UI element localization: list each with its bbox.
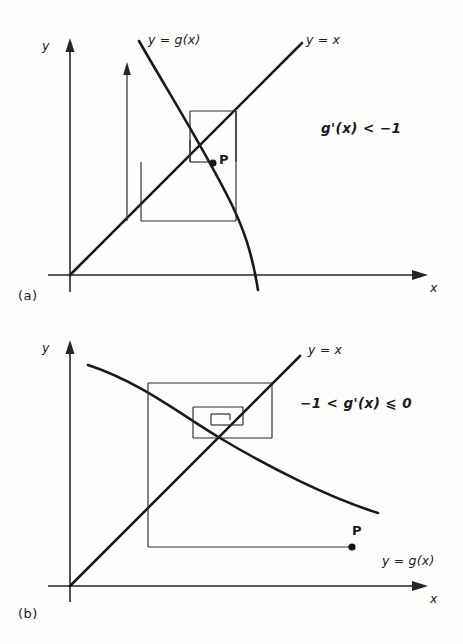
curve-y-equals-g-of-x xyxy=(88,365,378,513)
panel-a: y x y = g(x) y = x P g'(x) < −1 (a) xyxy=(0,0,463,322)
fixed-point-marker xyxy=(348,543,355,550)
y-axis-label: y xyxy=(42,340,50,355)
curve-label: y = g(x) xyxy=(382,553,435,568)
line-y-equals-x xyxy=(70,43,302,275)
y-axis xyxy=(66,340,75,602)
line-label: y = x xyxy=(308,342,342,357)
x-axis-label: x xyxy=(430,280,438,295)
panel-b: y x y = x y = g(x) P −1 < g'(x) ⩽ 0 (b) xyxy=(0,310,463,644)
y-axis-label: y xyxy=(42,38,50,53)
panel-caption-b: (b) xyxy=(18,606,38,621)
curve-label: y = g(x) xyxy=(148,32,201,47)
divergence-arrow xyxy=(123,62,131,221)
x-axis xyxy=(48,581,428,591)
y-axis xyxy=(66,38,75,292)
line-label: y = x xyxy=(306,32,340,47)
panel-b-plot xyxy=(0,310,463,644)
curve-y-equals-g-of-x xyxy=(139,41,258,290)
panel-caption-a: (a) xyxy=(18,288,38,303)
panel-a-plot xyxy=(0,0,463,322)
x-axis-label: x xyxy=(430,591,438,606)
figure-page: y x y = g(x) y = x P g'(x) < −1 (a) xyxy=(0,0,463,644)
condition-label: g'(x) < −1 xyxy=(321,120,401,136)
condition-label: −1 < g'(x) ⩽ 0 xyxy=(300,395,412,411)
point-label-p: P xyxy=(219,152,229,167)
point-label-p: P xyxy=(352,523,362,538)
line-y-equals-x xyxy=(70,356,300,586)
x-axis xyxy=(48,270,428,280)
fixed-point-marker xyxy=(209,159,216,166)
